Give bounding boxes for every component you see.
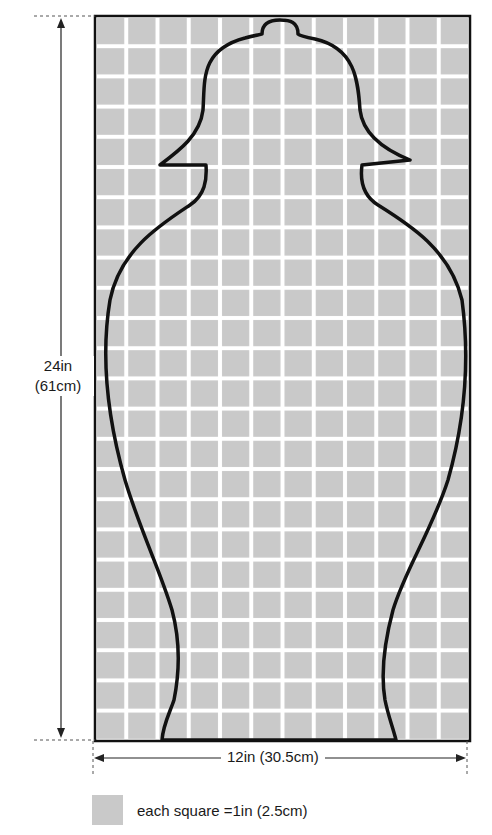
arrow-left-icon <box>94 754 104 762</box>
width-label: 12in (30.5cm) <box>221 748 325 765</box>
arrow-right-icon <box>456 754 466 762</box>
height-label-cm: (61cm) <box>22 376 94 396</box>
legend-swatch <box>92 795 123 825</box>
grid-background <box>95 16 470 741</box>
height-label: 24in (61cm) <box>22 356 94 396</box>
legend: each square =1in (2.5cm) <box>92 795 308 825</box>
height-label-inches: 24in <box>22 356 94 376</box>
pattern-diagram <box>0 0 492 835</box>
arrow-up-icon <box>57 18 65 28</box>
arrow-down-icon <box>57 728 65 738</box>
legend-text: each square =1in (2.5cm) <box>137 802 308 819</box>
